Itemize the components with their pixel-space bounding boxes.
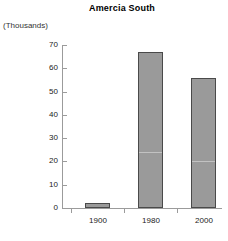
y-tick-mark (63, 208, 67, 209)
y-tick-mark (63, 68, 67, 69)
y-tick-label: 0 (28, 204, 58, 212)
y-tick-mark (63, 45, 67, 46)
x-axis-line (62, 208, 222, 209)
y-tick-label: 50 (28, 88, 58, 96)
y-tick-label: 70 (28, 41, 58, 49)
bar-seam (139, 152, 162, 153)
plot-area: 010203040506070 190019802000 (0, 0, 228, 241)
y-tick-mark (63, 115, 67, 116)
bar-seam (192, 161, 215, 162)
y-tick-mark (63, 161, 67, 162)
y-tick-mark (63, 185, 67, 186)
x-tick-label: 1980 (131, 217, 171, 225)
bar (85, 203, 110, 208)
x-tick-mark (71, 209, 72, 213)
y-tick-label: 10 (28, 181, 58, 189)
y-tick-label: 40 (28, 111, 58, 119)
y-tick-mark (63, 138, 67, 139)
y-tick-label: 30 (28, 134, 58, 142)
y-tick-mark (63, 92, 67, 93)
x-tick-mark (124, 209, 125, 213)
x-tick-label: 2000 (184, 217, 224, 225)
bar (191, 78, 216, 208)
x-tick-mark (177, 209, 178, 213)
bar-chart: Amercia South (Thousands) 01020304050607… (0, 0, 228, 241)
bar (138, 52, 163, 208)
y-tick-label: 20 (28, 157, 58, 165)
y-tick-label: 60 (28, 64, 58, 72)
x-tick-label: 1900 (78, 217, 118, 225)
